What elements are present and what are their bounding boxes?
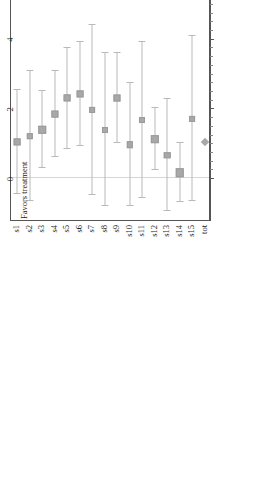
point-estimate-marker — [64, 95, 71, 102]
ci-upper-cap — [14, 89, 21, 90]
x-axis-minor-tick — [210, 117, 213, 118]
x-axis-minor-tick — [210, 126, 213, 127]
ci-upper-cap — [39, 90, 46, 91]
forest-row — [49, 0, 62, 220]
ci-upper-cap — [139, 41, 146, 42]
x-axis-tick — [210, 39, 214, 40]
ci-upper-cap — [164, 98, 171, 99]
row-label-s4: s4 — [50, 225, 59, 233]
point-estimate-marker — [14, 139, 21, 146]
x-axis-minor-tick — [210, 65, 213, 66]
favors-treatment-label: Favors treatment — [19, 162, 29, 219]
x-axis-minor-tick — [210, 91, 213, 92]
forest-row — [186, 0, 199, 220]
row-label-s7: s7 — [87, 225, 96, 233]
ci-lower-cap — [76, 145, 83, 146]
x-axis-minor-tick — [210, 74, 213, 75]
ci-upper-cap — [176, 142, 183, 143]
forest-row — [36, 0, 49, 220]
forest-row — [149, 0, 162, 220]
ci-lower-cap — [151, 169, 158, 170]
row-label-s14: s14 — [175, 225, 184, 237]
x-axis-minor-tick — [210, 30, 213, 31]
forest-row — [61, 0, 74, 220]
forest-row — [124, 0, 137, 220]
forest-row — [86, 0, 99, 220]
x-axis-tick-label: 0 — [5, 177, 15, 181]
x-axis — [210, 0, 211, 221]
point-estimate-marker — [176, 168, 185, 177]
ci-lower-cap — [114, 142, 121, 143]
row-label-s11: s11 — [137, 225, 146, 237]
ci-upper-cap — [101, 52, 108, 53]
row-label-s8: s8 — [100, 225, 109, 233]
forest-row — [74, 0, 87, 220]
ci-lower-cap — [51, 156, 58, 157]
point-estimate-marker — [38, 126, 46, 134]
x-axis-tick-label: 2 — [5, 107, 15, 111]
point-estimate-marker — [164, 152, 171, 159]
ci-upper-cap — [151, 107, 158, 108]
forest-row — [174, 0, 187, 220]
x-axis-minor-tick — [210, 4, 213, 5]
row-label-s12: s12 — [150, 225, 159, 237]
forest-row — [99, 0, 112, 220]
ci-lower-cap — [139, 197, 146, 198]
point-estimate-marker — [102, 127, 108, 133]
point-estimate-marker — [127, 141, 133, 147]
forest-row — [111, 0, 124, 220]
point-estimate-marker — [76, 90, 83, 97]
point-estimate-marker — [27, 133, 33, 139]
rotated-figure-wrapper: s1s2s3s4s5s6s7s8s9s10s11s12s13s14s15tot … — [0, 0, 263, 263]
x-axis-minor-tick — [210, 152, 213, 153]
point-estimate-marker — [114, 94, 121, 101]
ci-upper-cap — [114, 52, 121, 53]
table-separator-rule — [10, 220, 210, 221]
x-axis-tick-label: 4 — [5, 38, 15, 42]
plot-area — [10, 0, 210, 221]
ci-upper-cap — [64, 47, 71, 48]
ci-lower-cap — [101, 205, 108, 206]
point-estimate-marker — [189, 116, 195, 122]
row-label-tot: tot — [200, 225, 209, 234]
row-label-s1: s1 — [12, 225, 21, 233]
ci-upper-cap — [26, 70, 33, 71]
row-label-s2: s2 — [25, 225, 34, 233]
ci-upper-cap — [76, 41, 83, 42]
ci-lower-cap — [89, 194, 96, 195]
ci-upper-cap — [89, 24, 96, 25]
x-axis-minor-tick — [210, 100, 213, 101]
point-estimate-marker — [89, 107, 95, 113]
x-axis-tick — [210, 178, 214, 179]
row-label-s9: s9 — [112, 225, 121, 233]
forest-row — [136, 0, 149, 220]
forest-row — [161, 0, 174, 220]
x-axis-tick — [210, 108, 214, 109]
ci-lower-cap — [64, 148, 71, 149]
x-axis-minor-tick — [210, 82, 213, 83]
x-axis-minor-tick — [210, 135, 213, 136]
ci-upper-cap — [51, 70, 58, 71]
point-estimate-marker — [51, 110, 58, 117]
x-axis-minor-tick — [210, 56, 213, 57]
x-axis-minor-tick — [210, 169, 213, 170]
row-label-s6: s6 — [75, 225, 84, 233]
point-estimate-marker — [139, 117, 145, 123]
row-label-s5: s5 — [62, 225, 71, 233]
ci-lower-cap — [126, 205, 133, 206]
ci-lower-cap — [189, 200, 196, 201]
x-axis-minor-tick — [210, 161, 213, 162]
row-label-s3: s3 — [37, 225, 46, 233]
row-label-s13: s13 — [162, 225, 171, 237]
ci-upper-cap — [189, 35, 196, 36]
point-estimate-marker — [151, 135, 159, 143]
summary-diamond-marker — [201, 138, 209, 146]
row-label-s15: s15 — [187, 225, 196, 237]
row-label-column: s1s2s3s4s5s6s7s8s9s10s11s12s13s14s15tot — [10, 225, 210, 263]
x-axis-minor-tick — [210, 47, 213, 48]
x-axis-minor-tick — [210, 13, 213, 14]
ci-upper-cap — [126, 82, 133, 83]
forest-plot-figure: s1s2s3s4s5s6s7s8s9s10s11s12s13s14s15tot … — [0, 0, 263, 263]
ci-lower-cap — [39, 167, 46, 168]
ci-lower-cap — [176, 201, 183, 202]
